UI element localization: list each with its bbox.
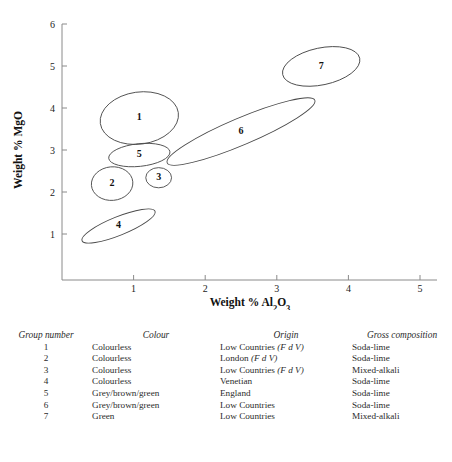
column-header-gross-composition: Gross composition <box>352 330 452 342</box>
cell-gross-composition: Soda-lime <box>352 400 452 412</box>
cell-colour: Grey/brown/green <box>92 388 220 400</box>
x-tick-label: 3 <box>274 283 279 294</box>
ellipse-label-1: 1 <box>137 111 142 122</box>
origin-main: Low Countries <box>220 400 275 410</box>
column-header-group-number: Group number <box>0 330 92 342</box>
table-header-row: Group number Colour Origin Gross composi… <box>0 330 452 342</box>
ellipse-label-3: 3 <box>156 171 161 182</box>
cell-origin: Low Countries <box>220 411 352 423</box>
y-tick-label: 3 <box>50 145 55 156</box>
origin-main: England <box>220 388 251 398</box>
x-tick-label: 1 <box>131 283 136 294</box>
table-row: 6Grey/brown/greenLow CountriesSoda-lime <box>0 400 452 412</box>
origin-attribution-note: (F d V) <box>277 342 304 352</box>
ellipse-label-4: 4 <box>116 219 121 230</box>
cell-group-number: 3 <box>0 365 92 377</box>
origin-main: Low Countries <box>220 342 275 352</box>
x-axis-title: Weight % Al2O3 <box>210 296 291 310</box>
cell-colour: Colourless <box>92 342 220 354</box>
cell-group-number: 4 <box>0 376 92 388</box>
x-tick-label: 4 <box>346 283 351 294</box>
cell-origin: England <box>220 388 352 400</box>
y-tick-label: 5 <box>50 61 55 72</box>
column-header-origin: Origin <box>220 330 352 342</box>
cell-gross-composition: Soda-lime <box>352 376 452 388</box>
y-tick-label: 6 <box>50 19 55 30</box>
cell-origin: Venetian <box>220 376 352 388</box>
cell-group-number: 6 <box>0 400 92 412</box>
cell-colour: Colourless <box>92 365 220 377</box>
origin-attribution-note: (F d V) <box>277 365 304 375</box>
cell-origin: Low Countries (F d V) <box>220 342 352 354</box>
axes-group <box>62 24 437 280</box>
x-tick-label: 5 <box>418 283 423 294</box>
y-tick-label: 1 <box>50 229 55 240</box>
cell-colour: Green <box>92 411 220 423</box>
table-row: 3ColourlessLow Countries (F d V)Mixed-al… <box>0 365 452 377</box>
cell-group-number: 5 <box>0 388 92 400</box>
table-row: 2ColourlessLondon (F d V)Soda-lime <box>0 353 452 365</box>
cell-origin: Low Countries <box>220 400 352 412</box>
table-body: 1ColourlessLow Countries (F d V)Soda-lim… <box>0 342 452 423</box>
cell-gross-composition: Soda-lime <box>352 342 452 354</box>
cell-gross-composition: Soda-lime <box>352 353 452 365</box>
ellipse-label-2: 2 <box>110 177 115 188</box>
ellipse-label-5: 5 <box>137 148 142 159</box>
y-tick-label: 4 <box>50 103 55 114</box>
table-row: 1ColourlessLow Countries (F d V)Soda-lim… <box>0 342 452 354</box>
table-row: 5Grey/brown/greenEnglandSoda-lime <box>0 388 452 400</box>
cell-group-number: 7 <box>0 411 92 423</box>
ellipse-label-6: 6 <box>239 125 244 136</box>
scatter-plot-svg: 12345 123456 1234567 Weight % Al2O3 Weig… <box>0 0 452 310</box>
figure-plot-area: 12345 123456 1234567 Weight % Al2O3 Weig… <box>0 0 452 310</box>
cell-group-number: 2 <box>0 353 92 365</box>
y-axis-ticks: 123456 <box>50 19 67 240</box>
ellipse-fields-group: 1234567 <box>79 40 364 249</box>
x-axis-ticks: 12345 <box>131 275 422 294</box>
x-tick-label: 2 <box>203 283 208 294</box>
cell-origin: Low Countries (F d V) <box>220 365 352 377</box>
cell-gross-composition: Mixed-alkali <box>352 365 452 377</box>
column-header-colour: Colour <box>92 330 220 342</box>
cell-colour: Colourless <box>92 353 220 365</box>
origin-main: Low Countries <box>220 365 275 375</box>
table-row: 7GreenLow CountriesMixed-alkali <box>0 411 452 423</box>
cell-gross-composition: Soda-lime <box>352 388 452 400</box>
y-tick-label: 2 <box>50 187 55 198</box>
origin-main: Low Countries <box>220 411 275 421</box>
group-attributes-table: Group number Colour Origin Gross composi… <box>0 330 452 423</box>
origin-attribution-note: (F d V) <box>251 353 278 363</box>
origin-main: London <box>220 353 249 363</box>
cell-colour: Grey/brown/green <box>92 400 220 412</box>
cell-gross-composition: Mixed-alkali <box>352 411 452 423</box>
cell-colour: Colourless <box>92 376 220 388</box>
cell-group-number: 1 <box>0 342 92 354</box>
cell-origin: London (F d V) <box>220 353 352 365</box>
y-axis-title: Weight % MgO <box>12 111 25 189</box>
ellipse-label-7: 7 <box>319 60 324 71</box>
table-row: 4ColourlessVenetianSoda-lime <box>0 376 452 388</box>
origin-main: Venetian <box>220 376 252 386</box>
